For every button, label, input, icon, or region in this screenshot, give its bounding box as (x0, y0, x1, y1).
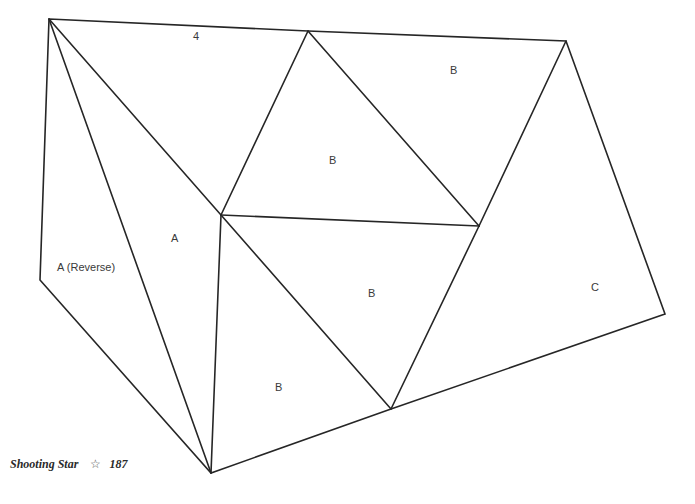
page-caption: Shooting Star☆187 (10, 457, 127, 472)
region-label-b-center-lower: B (368, 287, 375, 299)
edge-p1-p7 (49, 19, 211, 473)
page-number: 187 (109, 457, 127, 472)
region-label-a: A (171, 232, 179, 244)
edge-p2-p5 (308, 31, 479, 226)
region-label-b-top-right: B (450, 64, 457, 76)
region-label-a-reverse: A (Reverse) (57, 261, 115, 273)
edge-p4-p8 (221, 215, 391, 409)
outline-edge (40, 19, 665, 473)
edge-p4-p5 (221, 215, 479, 226)
region-label-b-center-upper: B (329, 154, 336, 166)
pattern-title: Shooting Star (10, 457, 78, 472)
star-icon: ☆ (90, 457, 101, 472)
edge-p4-p7 (211, 215, 221, 473)
edge-p3-p5 (479, 41, 566, 226)
edge-p2-p4 (221, 31, 308, 215)
quilt-block-diagram: 4 B B A A (Reverse) B C B (0, 0, 695, 504)
edge-p1-p4 (49, 19, 221, 215)
region-label-b-bottom: B (275, 381, 282, 393)
edge-p5-p8 (391, 226, 479, 409)
region-label-c: C (591, 281, 599, 293)
region-label-4: 4 (193, 30, 199, 42)
